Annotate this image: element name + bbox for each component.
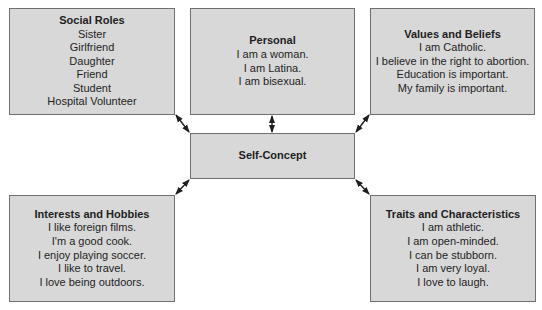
box-item: Student	[73, 82, 111, 96]
box-item: Sister	[78, 28, 106, 42]
box-item: I am open-minded.	[407, 235, 499, 249]
box-item: I like to travel.	[58, 262, 126, 276]
box-item: I'm a good cook.	[52, 235, 132, 249]
box-item: I am bisexual.	[239, 75, 307, 89]
box-title: Interests and Hobbies	[35, 208, 150, 222]
center-title: Self-Concept	[239, 149, 307, 163]
personal-box: Personal I am a woman. I am Latina. I am…	[190, 8, 355, 115]
box-item: I believe in the right to abortion.	[376, 55, 529, 69]
traits-characteristics-box: Traits and Characteristics I am athletic…	[370, 195, 536, 302]
box-title: Personal	[249, 34, 295, 48]
box-item: I love to laugh.	[417, 276, 489, 290]
box-item: Hospital Volunteer	[47, 95, 136, 109]
box-item: Girlfriend	[70, 41, 115, 55]
box-item: I am Catholic.	[419, 41, 486, 55]
box-item: I am very loyal.	[416, 262, 490, 276]
interests-hobbies-box: Interests and Hobbies I like foreign fil…	[9, 195, 175, 302]
box-title: Values and Beliefs	[404, 28, 501, 42]
box-title: Traits and Characteristics	[386, 208, 521, 222]
box-title: Social Roles	[59, 14, 124, 28]
self-concept-box: Self-Concept	[190, 133, 355, 179]
box-item: Daughter	[69, 55, 114, 69]
box-item: I am a woman.	[236, 48, 308, 62]
arrow-social-self	[176, 115, 189, 132]
box-item: My family is important.	[398, 82, 507, 96]
box-item: I enjoy playing soccer.	[38, 249, 146, 263]
box-item: I like foreign films.	[48, 221, 136, 235]
arrow-values-self	[356, 115, 369, 132]
values-beliefs-box: Values and Beliefs I am Catholic. I beli…	[370, 8, 535, 115]
box-item: Education is important.	[397, 68, 509, 82]
box-item: I love being outdoors.	[39, 276, 144, 290]
box-item: I can be stubborn.	[409, 249, 497, 263]
box-item: I am athletic.	[422, 221, 484, 235]
arrow-traits-self	[356, 180, 369, 194]
arrow-interests-self	[176, 180, 189, 194]
social-roles-box: Social Roles Sister Girlfriend Daughter …	[9, 8, 175, 115]
box-item: Friend	[76, 68, 107, 82]
box-item: I am Latina.	[244, 62, 301, 76]
